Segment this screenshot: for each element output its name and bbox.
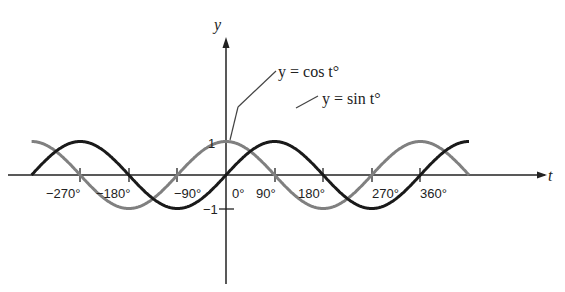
cos-equation: y = cos t° — [278, 63, 339, 81]
x-tick-neg270: −270° — [46, 186, 80, 201]
x-tick-neg180: −180° — [96, 186, 130, 201]
y-axis-arrow-icon — [223, 37, 230, 48]
x-tick-270: 270° — [372, 186, 399, 201]
sin-equation: y = sin t° — [322, 90, 381, 108]
x-tick-0: 0° — [232, 186, 244, 201]
x-tick-360: 360° — [420, 186, 447, 201]
y-tick-1: 1 — [208, 136, 215, 151]
y-tick-neg1: −1 — [203, 202, 218, 217]
sin-leader — [296, 96, 318, 108]
trig-graph: y t y = cos t° y = sin t° 1 −1 −270° −18… — [0, 0, 565, 292]
x-tick-neg90: −90° — [174, 186, 201, 201]
x-axis-label: t — [548, 167, 553, 184]
x-axis-arrow-icon — [537, 172, 547, 179]
cos-leader-2 — [230, 107, 238, 140]
y-axis-label: y — [212, 16, 222, 34]
x-tick-180: 180° — [298, 186, 325, 201]
x-tick-90: 90° — [256, 186, 276, 201]
cos-leader — [238, 71, 276, 107]
